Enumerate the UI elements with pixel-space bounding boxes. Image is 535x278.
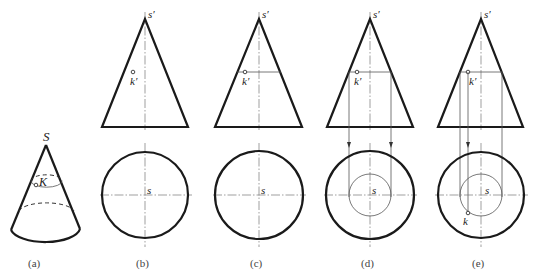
caption: (a) [28,257,41,270]
mid-ellipse-back [19,203,74,211]
panel-d: s′ k′ s (d) [324,8,417,270]
panel-a: S K (a) [11,129,80,270]
caption: (b) [136,257,149,270]
point-label: k′ [130,75,138,87]
center-label: s [372,184,376,196]
panel-b: s′ k′ s (b) [100,8,192,270]
center-label: s [485,184,489,196]
point-label: k′ [354,75,362,87]
front-view-triangle [438,19,523,127]
point-k-prime [131,70,135,74]
point-label: K [38,175,48,189]
arrow-k-icon [466,142,470,148]
center-label: s [147,184,151,196]
point-k [34,183,38,187]
caption: (e) [472,257,485,270]
point-label: k′ [469,75,477,87]
base-ellipse-front [11,229,80,242]
apex-label: s′ [262,8,269,20]
caption: (d) [361,257,374,270]
apex-label: s′ [484,8,491,20]
panel-e: s′ k′ k s (e) [435,8,528,270]
apex-label: s′ [148,8,155,20]
panel-c: s′ k′ s (c) [213,8,306,270]
cone-point-projection-figure: S K (a) s′ k′ s (b) s′ k′ s [0,0,535,278]
point-label: k′ [242,75,250,87]
arrow-left-icon [347,142,351,148]
center-label: s [261,184,265,196]
caption: (c) [250,257,263,270]
point-k-prime [355,70,359,74]
apex-label: s′ [373,8,380,20]
arrow-right-icon [389,142,393,148]
front-view-triangle [215,19,302,127]
apex-label: S [43,129,50,144]
point-k-prime [243,70,247,74]
plan-point-label: k [463,215,469,227]
